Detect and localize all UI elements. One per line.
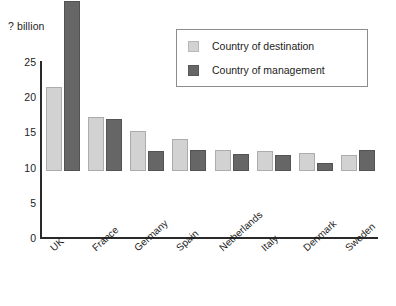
legend-item-label: Country of destination bbox=[212, 40, 314, 52]
y-axis-tick-label: 25 bbox=[24, 56, 36, 68]
bar[interactable] bbox=[130, 131, 146, 171]
bar[interactable] bbox=[64, 1, 80, 171]
bar[interactable] bbox=[257, 151, 273, 171]
bar[interactable] bbox=[46, 87, 62, 171]
chart-legend: Country of destination Country of manage… bbox=[176, 29, 368, 87]
bar[interactable] bbox=[148, 151, 164, 171]
y-axis-tick-label: 0 bbox=[30, 232, 36, 244]
y-axis-tick-label: 10 bbox=[24, 162, 36, 174]
legend-swatch-icon bbox=[188, 65, 199, 76]
bar[interactable] bbox=[88, 117, 104, 171]
bar-group bbox=[46, 0, 80, 171]
bar[interactable] bbox=[299, 153, 315, 171]
chart-screenshot: ? billion 0510152025 UKFranceGermanySpai… bbox=[0, 0, 396, 306]
legend-swatch-icon bbox=[188, 41, 199, 52]
bar[interactable] bbox=[275, 155, 291, 171]
legend-item-country-of-management: Country of management bbox=[188, 63, 325, 77]
bar[interactable] bbox=[317, 163, 333, 171]
y-axis-ticks: 0510152025 bbox=[0, 0, 36, 306]
bar-group bbox=[130, 0, 164, 171]
y-axis-tick-label: 15 bbox=[24, 126, 36, 138]
bar[interactable] bbox=[233, 154, 249, 171]
bar-group bbox=[88, 0, 122, 171]
bar[interactable] bbox=[341, 155, 357, 171]
legend-item-country-of-destination: Country of destination bbox=[188, 39, 314, 53]
legend-item-label: Country of management bbox=[212, 64, 325, 76]
y-axis-tick-label: 20 bbox=[24, 91, 36, 103]
y-axis-tick-label: 5 bbox=[30, 197, 36, 209]
bar[interactable] bbox=[359, 150, 375, 171]
bar[interactable] bbox=[106, 119, 122, 171]
bar[interactable] bbox=[172, 139, 188, 171]
bar[interactable] bbox=[190, 150, 206, 171]
bar[interactable] bbox=[215, 150, 231, 171]
